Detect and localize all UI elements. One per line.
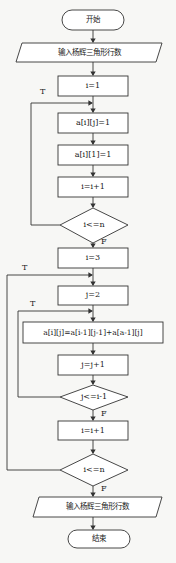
inc-i-label-2: i=i+1 xyxy=(58,427,128,435)
start-label: 开始 xyxy=(62,16,124,24)
init-j2-label: j=2 xyxy=(58,291,128,299)
set-aij-label: a[i][j]=1 xyxy=(58,119,128,127)
input-label: 输入杨辉三角形行数 xyxy=(16,49,162,57)
formula-label: a[i][j]=a[i-1][j-1]+a[a-1][j] xyxy=(23,329,163,337)
cond-i-label-1: i<=n xyxy=(60,221,128,229)
inc-j-label: j=j+1 xyxy=(58,361,128,369)
init-i-label: i=1 xyxy=(58,82,128,90)
inc-i-label-1: i=i+1 xyxy=(58,183,128,191)
output-label: 输入杨辉三角形行数 xyxy=(33,503,162,511)
false-label-3: F xyxy=(101,485,107,493)
end-label: 结束 xyxy=(68,535,130,543)
false-label-2: F xyxy=(101,410,107,418)
true-label-1: T xyxy=(40,88,45,96)
init-i3-label: i=3 xyxy=(58,254,128,262)
true-label-3: T xyxy=(30,300,35,308)
cond-i-label-2: i<=n xyxy=(60,466,128,474)
false-label-1: F xyxy=(101,238,107,246)
true-label-2: T xyxy=(22,264,27,272)
cond-j-label: j<=i-1 xyxy=(60,393,128,401)
set-ai1-label: a[i][1]=1 xyxy=(58,151,128,159)
